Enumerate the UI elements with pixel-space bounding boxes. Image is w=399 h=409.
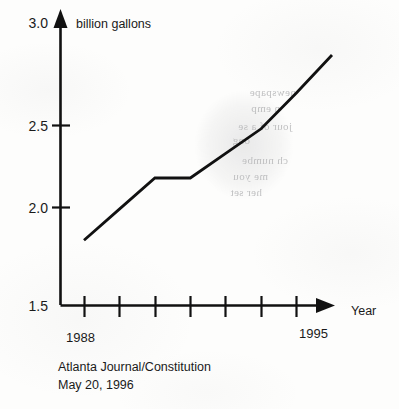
y-tick-label-2-0: 2.0 (14, 201, 48, 215)
y-axis (54, 9, 68, 305)
x-axis-arrowhead (316, 298, 335, 313)
y-tick-label-1-5: 1.5 (14, 299, 48, 313)
source-date: May 20, 1996 (58, 379, 134, 392)
x-axis-end-label: 1995 (299, 327, 328, 340)
x-axis-start-label: 1988 (66, 331, 95, 344)
source-publication: Atlanta Journal/Constitution (58, 361, 211, 374)
chart-plot-area (0, 0, 399, 409)
x-axis-title: Year (351, 305, 376, 318)
x-axis (61, 298, 336, 313)
scanned-chart-figure: newspape n emp jour of a se ong ch numbe… (0, 0, 399, 409)
y-tick-label-2-5: 2.5 (14, 119, 48, 133)
y-axis-arrowhead (54, 9, 68, 28)
y-axis-title: billion gallons (76, 18, 151, 31)
y-tick-label-3-0: 3.0 (14, 16, 48, 30)
data-series-line (84, 55, 332, 240)
